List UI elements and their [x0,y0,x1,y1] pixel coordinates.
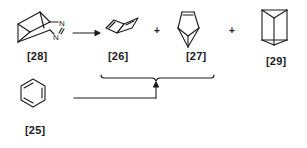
molecule-25-benzene-structure [21,79,45,107]
label-compound-25: [25] [25,124,45,136]
molecule-27-structure [178,12,199,47]
reaction-arrow [73,31,100,36]
molecule-28-structure [18,12,58,42]
plus-sign-1: + [154,25,160,36]
azo-nitrogen-top: N [59,19,65,28]
label-compound-29: [29] [266,55,286,67]
product-grouping-brace [101,75,214,81]
benzene-to-products-arrow [74,82,159,98]
label-compound-28: [28] [27,50,47,62]
reaction-scheme-drawing: N N [0,0,307,148]
molecule-29-structure [262,10,287,45]
label-compound-27: [27] [186,50,206,62]
plus-sign-2: + [229,25,235,36]
label-compound-26: [26] [108,50,128,62]
azo-nitrogen-bottom: N [53,33,59,42]
molecule-26-structure [106,18,138,33]
